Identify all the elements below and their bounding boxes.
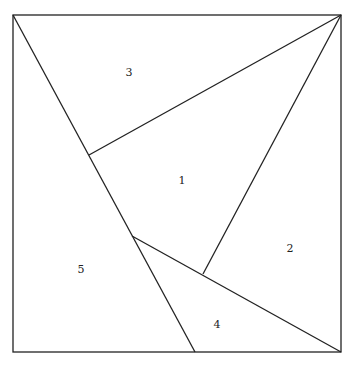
region-label-4: 4 xyxy=(214,318,221,331)
region-label-2: 2 xyxy=(287,242,294,255)
region-label-1: 1 xyxy=(179,174,186,187)
segment-diagonal-left xyxy=(13,15,195,352)
region-label-5: 5 xyxy=(78,263,85,276)
tangram-diagram: 1 2 3 4 5 xyxy=(0,0,351,366)
region-label-3: 3 xyxy=(126,66,133,79)
outer-square xyxy=(13,15,341,352)
